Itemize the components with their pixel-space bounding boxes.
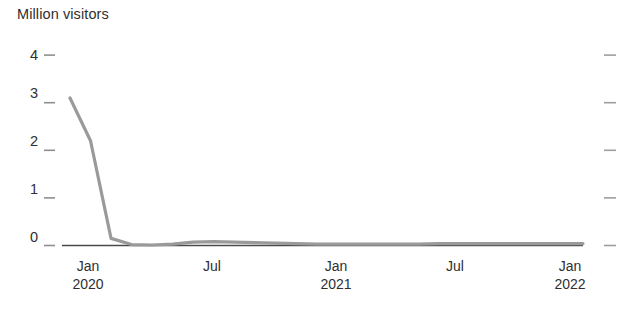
data-series-line [70, 98, 583, 245]
y-axis-tick-marks [44, 55, 55, 245]
plot-area [0, 0, 642, 327]
line-chart: Million visitors 4 3 2 1 0 Jan 2020 Jul … [0, 0, 642, 327]
right-axis-tick-marks [604, 55, 616, 245]
